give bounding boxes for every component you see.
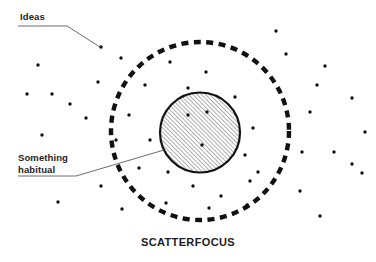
idea-dot [120, 207, 123, 210]
idea-dot [350, 96, 353, 99]
idea-dot [99, 45, 102, 48]
idea-dot [363, 130, 366, 133]
hatched-focus-core [160, 93, 240, 173]
label-ideas: Ideas [20, 11, 45, 23]
idea-dot [233, 95, 236, 98]
idea-dot [219, 194, 222, 197]
idea-dot [56, 200, 59, 203]
idea-dot [205, 110, 208, 113]
habitual-leader-line [76, 150, 164, 176]
idea-dot [315, 83, 318, 86]
idea-dot [148, 138, 151, 141]
idea-dot [25, 92, 28, 95]
idea-dot [84, 116, 87, 119]
label-habitual-text: Something habitual [18, 152, 68, 175]
diagram-canvas [0, 0, 376, 262]
idea-dot [323, 64, 326, 67]
idea-dot [332, 150, 335, 153]
idea-dot [287, 132, 290, 135]
idea-dot [186, 113, 189, 116]
idea-dot [308, 110, 311, 113]
idea-dot [127, 113, 130, 116]
idea-dot [50, 92, 53, 95]
idea-dot [207, 206, 210, 209]
idea-dot [96, 80, 99, 83]
idea-dot [143, 83, 146, 86]
idea-dot [137, 166, 140, 169]
idea-dot [284, 52, 287, 55]
idea-dot [300, 150, 303, 153]
idea-dot [243, 153, 246, 156]
idea-dot [166, 170, 169, 173]
label-something-habitual: Something habitual [18, 152, 68, 175]
idea-dot [99, 184, 102, 187]
idea-dot [318, 214, 321, 217]
idea-dot [200, 143, 203, 146]
idea-dot [36, 63, 39, 66]
caption-scatterfocus: SCATTERFOCUS [0, 236, 376, 248]
idea-dot [204, 70, 207, 73]
idea-dot [114, 138, 117, 141]
idea-dot [40, 133, 43, 136]
idea-dot [119, 56, 122, 59]
idea-dot [164, 201, 167, 204]
scatterfocus-diagram: Ideas Something habitual SCATTERFOCUS [0, 0, 376, 262]
idea-dot [168, 60, 171, 63]
idea-dot [251, 126, 254, 129]
idea-dot [68, 102, 71, 105]
idea-dot [191, 184, 194, 187]
idea-dot [256, 170, 259, 173]
idea-dot [274, 29, 277, 32]
ideas-leader-line [67, 26, 100, 47]
idea-dot [248, 179, 251, 182]
idea-dot [360, 171, 363, 174]
idea-dot [298, 189, 301, 192]
idea-dot [245, 203, 248, 206]
idea-dot [186, 86, 189, 89]
label-ideas-text: Ideas [20, 11, 45, 22]
idea-dot [350, 162, 353, 165]
